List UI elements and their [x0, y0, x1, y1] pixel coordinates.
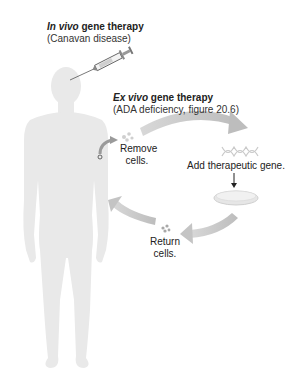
- in-vivo-italic: In vivo: [47, 21, 79, 32]
- in-vivo-title-rest: gene therapy: [79, 21, 144, 32]
- cycle-arrow-bottom-left: [108, 196, 156, 225]
- diagram-canvas: [0, 0, 301, 379]
- cycle-arrow-bottom-right: [180, 213, 238, 244]
- in-vivo-subtitle: (Canavan disease): [47, 33, 131, 45]
- ex-vivo-title: Ex vivo gene therapy: [113, 92, 213, 104]
- return-line-1: Return: [146, 236, 184, 248]
- return-line-2: cells.: [146, 248, 184, 260]
- add-gene-label: Add therapeutic gene.: [181, 160, 291, 172]
- dna-icon: [222, 147, 258, 156]
- remove-line-1: Remove: [120, 143, 154, 155]
- remove-cells-label: Remove cells.: [120, 143, 154, 167]
- remove-line-2: cells.: [120, 155, 154, 167]
- return-cells-label: Return cells.: [146, 236, 184, 260]
- petri-dish-icon: [214, 191, 258, 205]
- cells-icon-removed: [122, 132, 134, 142]
- cells-icon-returned: [161, 224, 170, 232]
- ex-vivo-italic: Ex vivo: [113, 92, 148, 103]
- human-silhouette: [23, 67, 108, 368]
- syringe-icon: [70, 45, 134, 80]
- ex-vivo-subtitle: (ADA deficiency, figure 20.6): [113, 104, 239, 116]
- down-arrow-icon: [231, 173, 237, 188]
- ex-vivo-title-rest: gene therapy: [148, 92, 213, 103]
- in-vivo-title: In vivo gene therapy: [47, 21, 144, 33]
